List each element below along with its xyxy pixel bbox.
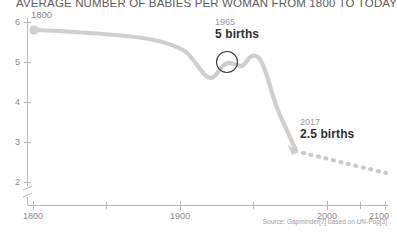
x-tick-label-1800: 1800: [23, 211, 43, 221]
y-tick-label-6: 6: [6, 17, 20, 27]
series-observed-fertility: [34, 30, 296, 150]
chart-source-credit: Source: Gapminder[7] based on UN-Pop[3]: [263, 218, 387, 225]
annotation-start-year: 1800: [31, 9, 52, 20]
annotation-2017: 2017 2.5 births: [300, 117, 354, 141]
annotation-2017-value: 2.5 births: [300, 127, 354, 141]
annotation-1965-year: 1965: [215, 17, 259, 27]
arrow-head-2017: [285, 145, 299, 158]
y-axis-break-mark: [23, 186, 32, 197]
annotation-1965-value: 5 births: [215, 27, 259, 41]
y-tick-label-3: 3: [6, 137, 20, 147]
annotation-1965: 1965 5 births: [215, 17, 259, 41]
y-tick-label-5: 5: [6, 57, 20, 67]
x-tick-label-1900: 1900: [170, 211, 190, 221]
start-point-marker: [29, 25, 38, 34]
annotation-2017-year: 2017: [300, 117, 354, 127]
y-tick-label-2: 2: [6, 177, 20, 187]
y-tick-label-4: 4: [6, 97, 20, 107]
series-un-projection: [303, 153, 386, 173]
